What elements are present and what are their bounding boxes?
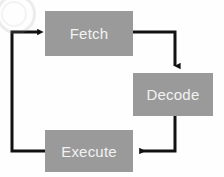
node-fetch-label: Fetch bbox=[70, 26, 109, 41]
node-decode: Decode bbox=[133, 73, 213, 116]
node-execute-label: Execute bbox=[61, 144, 117, 159]
arrow-execute-to-fetch bbox=[12, 32, 45, 151]
flowchart-diagram: Fetch Decode Execute bbox=[0, 0, 224, 177]
node-execute: Execute bbox=[45, 130, 133, 172]
arrow-fetch-to-decode bbox=[133, 32, 175, 66]
arrow-decode-to-execute bbox=[140, 116, 175, 151]
node-decode-label: Decode bbox=[147, 87, 200, 102]
node-fetch: Fetch bbox=[45, 11, 133, 56]
